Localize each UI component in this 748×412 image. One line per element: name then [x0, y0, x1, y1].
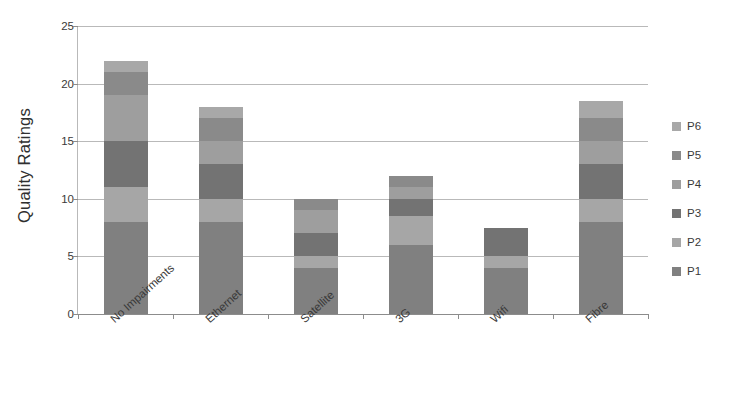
y-axis-tick-label: 0	[44, 308, 74, 320]
legend-item-label: P4	[687, 179, 701, 191]
bar-segment-p2[interactable]	[389, 216, 433, 245]
bar-segment-p3[interactable]	[294, 233, 338, 256]
y-axis-tick-label: 25	[44, 20, 74, 32]
bar-segment-p3[interactable]	[199, 164, 243, 199]
bar-segment-p2[interactable]	[199, 199, 243, 222]
legend-swatch-icon	[672, 180, 681, 189]
legend-item-p3[interactable]: P3	[672, 199, 742, 228]
legend-item-label: P1	[687, 266, 701, 278]
bar-segment-p2[interactable]	[484, 256, 528, 268]
bar-segment-p5[interactable]	[104, 72, 148, 95]
bar-segment-p5[interactable]	[199, 118, 243, 141]
legend-swatch-icon	[672, 209, 681, 218]
stacked-bar-chart: Quality Ratings 0510152025 No Impairment…	[0, 0, 748, 412]
legend-swatch-icon	[672, 122, 681, 131]
bar-segment-p5[interactable]	[389, 176, 433, 188]
legend-item-label: P6	[687, 121, 701, 133]
bar-segment-p2[interactable]	[104, 187, 148, 222]
bar-segment-p4[interactable]	[199, 141, 243, 164]
bar-segment-p3[interactable]	[104, 141, 148, 187]
legend-item-p6[interactable]: P6	[672, 112, 742, 141]
x-axis-line	[78, 314, 648, 316]
legend-item-label: P3	[687, 208, 701, 220]
bar-segment-p4[interactable]	[104, 95, 148, 141]
bar-segment-p4[interactable]	[294, 210, 338, 233]
legend-item-p5[interactable]: P5	[672, 141, 742, 170]
legend-item-p1[interactable]: P1	[672, 257, 742, 286]
legend-swatch-icon	[672, 151, 681, 160]
legend-item-label: P5	[687, 150, 701, 162]
bar-stack[interactable]	[199, 107, 243, 314]
y-axis-title: Quality Ratings	[4, 0, 44, 330]
bar-segment-p4[interactable]	[579, 141, 623, 164]
y-axis-title-text: Quality Ratings	[15, 108, 34, 223]
y-axis-tick-label: 10	[44, 193, 74, 205]
legend-swatch-icon	[672, 238, 681, 247]
y-axis-tick-label: 5	[44, 250, 74, 262]
bar-segment-p5[interactable]	[294, 199, 338, 211]
legend-item-p4[interactable]: P4	[672, 170, 742, 199]
x-axis-tick-mark	[648, 314, 649, 319]
bar-stack[interactable]	[579, 101, 623, 314]
bar-segment-p3[interactable]	[389, 199, 433, 216]
bar-segment-p5[interactable]	[579, 118, 623, 141]
bar-segment-p4[interactable]	[389, 187, 433, 199]
bar-stack[interactable]	[104, 61, 148, 314]
y-axis-tick-label: 20	[44, 78, 74, 90]
bar-segment-p1[interactable]	[389, 245, 433, 314]
legend-item-p2[interactable]: P2	[672, 228, 742, 257]
bar-segment-p6[interactable]	[199, 107, 243, 119]
bar-segment-p3[interactable]	[579, 164, 623, 199]
bar-segment-p6[interactable]	[104, 61, 148, 73]
bar-segment-p2[interactable]	[579, 199, 623, 222]
chart-legend: P6P5P4P3P2P1	[672, 112, 742, 286]
y-axis-tick-labels: 0510152025	[44, 0, 74, 412]
legend-item-label: P2	[687, 237, 701, 249]
bar-segment-p3[interactable]	[484, 228, 528, 257]
legend-swatch-icon	[672, 267, 681, 276]
y-axis-tick-label: 15	[44, 135, 74, 147]
bar-stack[interactable]	[484, 228, 528, 314]
bar-segment-p6[interactable]	[579, 101, 623, 118]
bar-segment-p2[interactable]	[294, 256, 338, 268]
x-axis-category-labels: No ImpairmentsEthernetSatellite3GWifiFib…	[78, 316, 648, 412]
bar-stack[interactable]	[389, 176, 433, 314]
